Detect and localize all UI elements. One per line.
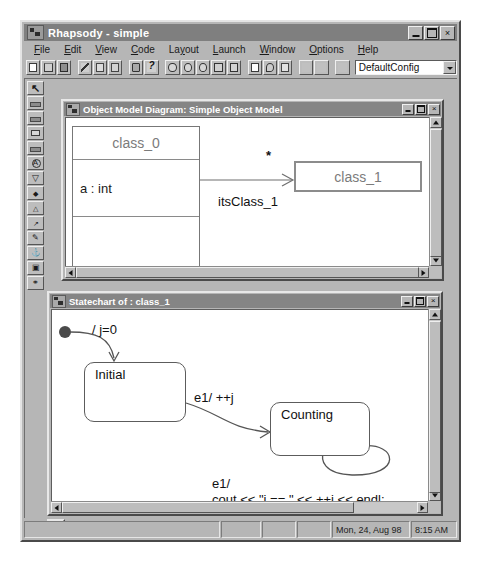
class-tool[interactable] (27, 111, 44, 125)
omd-vertical-thumb[interactable] (430, 129, 442, 257)
anchor-tool[interactable]: ⚓ (27, 246, 44, 260)
statechart-window[interactable]: Statechart of : class_1 × (47, 291, 443, 516)
state-initial[interactable]: Initial (84, 362, 186, 422)
menu-item-options[interactable]: Options (302, 44, 350, 55)
object-tool[interactable] (27, 126, 44, 140)
menu-item-edit[interactable]: Edit (57, 44, 88, 55)
omd-minimize-button[interactable] (402, 104, 414, 115)
properties-list-icon[interactable] (278, 60, 292, 75)
omd-vertical-scrollbar[interactable] (429, 117, 441, 266)
statechart-resize-corner[interactable] (428, 501, 440, 513)
copy-icon[interactable] (93, 60, 107, 75)
omd-resize-corner[interactable] (429, 266, 441, 278)
select-arrow-tool[interactable]: ↖ (27, 81, 44, 95)
state-initial-name: Initial (95, 367, 125, 382)
title-bar[interactable]: Rhapsody - simple × (24, 24, 457, 41)
statechart-scroll-right-arrow[interactable] (417, 502, 428, 513)
menu-item-launch[interactable]: Launch (206, 44, 253, 55)
omd-scroll-left-arrow[interactable] (65, 267, 76, 278)
state-counting-name: Counting (281, 407, 333, 422)
refresh-icon[interactable] (227, 60, 241, 75)
status-time: 8:15 AM (411, 521, 457, 538)
print-icon[interactable] (129, 60, 143, 75)
class-1-name: class_1 (334, 169, 381, 185)
class-0-operations (73, 217, 199, 266)
omd-scroll-up-arrow[interactable] (430, 117, 442, 128)
dependency-tool[interactable]: ↗ (27, 216, 44, 230)
drawing-palette: ↖ A ▽ ◆ △ ↗ ✎ ⚓ ▣ ⚭ (25, 79, 46, 518)
zoom-in-icon[interactable] (165, 60, 179, 75)
open-folder-icon[interactable] (41, 60, 55, 75)
omd-horizontal-thumb[interactable] (76, 267, 419, 278)
rhapsody-app-icon (27, 25, 44, 40)
omd-canvas[interactable]: class_0 a : int class_1 * itsClass_1 (65, 117, 429, 266)
statechart-horizontal-thumb[interactable] (62, 502, 354, 513)
menu-item-help[interactable]: Help (351, 44, 386, 55)
statechart-scroll-up-arrow[interactable] (429, 309, 441, 320)
zoom-selection-icon[interactable] (196, 60, 210, 75)
new-document-icon[interactable] (26, 60, 40, 75)
image-tool[interactable]: ▣ (27, 261, 44, 275)
statechart-scroll-left-arrow[interactable] (51, 502, 62, 513)
menu-item-window[interactable]: Window (253, 44, 303, 55)
omd-maximize-button[interactable] (415, 104, 427, 115)
statechart-maximize-button[interactable] (414, 296, 426, 307)
class-0-name: class_0 (73, 127, 199, 160)
statechart-minimize-button[interactable] (401, 296, 413, 307)
zoom-out-icon[interactable] (181, 60, 195, 75)
statechart-close-button[interactable]: × (427, 296, 439, 307)
statechart-title: Statechart of : class_1 (69, 296, 170, 307)
statechart-horizontal-scrollbar[interactable] (51, 501, 428, 513)
application-window: Rhapsody - simple × File Edit View Code … (20, 20, 461, 542)
menu-item-layout[interactable]: Layout (162, 44, 206, 55)
main-toolbar: DefaultConfig (24, 58, 457, 77)
constraint-tool[interactable]: ⚭ (27, 276, 44, 290)
paste-icon[interactable] (108, 60, 122, 75)
run-icon[interactable] (314, 60, 328, 75)
save-disk-icon[interactable] (57, 60, 71, 75)
aggregation-tool[interactable]: ▽ (27, 171, 44, 185)
new-diagram-icon[interactable] (248, 60, 262, 75)
association-role-label: itsClass_1 (218, 194, 278, 209)
fit-to-window-icon[interactable] (211, 60, 225, 75)
statechart-vertical-scrollbar[interactable] (428, 309, 440, 501)
help-question-icon[interactable] (144, 60, 158, 75)
minimize-button[interactable] (408, 26, 423, 40)
menu-item-code[interactable]: Code (124, 44, 162, 55)
close-button[interactable]: × (440, 26, 455, 40)
omd-close-button[interactable]: × (428, 104, 440, 115)
app-title: Rhapsody - simple (48, 27, 149, 39)
object-model-diagram-window[interactable]: Object Model Diagram: Simple Object Mode… (61, 99, 444, 281)
stop-build-icon[interactable] (299, 60, 313, 75)
omd-title-bar[interactable]: Object Model Diagram: Simple Object Mode… (64, 102, 441, 116)
configuration-value: DefaultConfig (356, 62, 443, 73)
statechart-title-bar[interactable]: Statechart of : class_1 × (50, 294, 440, 308)
animate-icon[interactable] (335, 60, 349, 75)
chevron-down-icon[interactable] (443, 61, 456, 74)
comment-tool[interactable]: ✎ (27, 231, 44, 245)
class-box-class-1[interactable]: class_1 (294, 161, 422, 192)
menu-item-file[interactable]: File (27, 44, 57, 55)
inheritance-tool[interactable]: △ (27, 201, 44, 215)
package-tool[interactable] (27, 96, 44, 110)
search-magnifier-icon[interactable] (263, 60, 277, 75)
statechart-vertical-thumb[interactable] (429, 321, 441, 493)
diagram-window-icon (66, 103, 80, 116)
class-box-class-0[interactable]: class_0 a : int (72, 126, 200, 266)
maximize-button[interactable] (424, 26, 439, 40)
omd-scroll-right-arrow[interactable] (418, 267, 429, 278)
mdi-client-area: ↖ A ▽ ◆ △ ↗ ✎ ⚓ ▣ ⚭ Object Model Diagram… (24, 78, 457, 518)
state-counting[interactable]: Counting (270, 402, 370, 456)
association-tool[interactable]: A (27, 156, 44, 170)
statechart-canvas[interactable]: / j=0 Initial Counting e1/ ++j e1/ cout … (51, 309, 428, 501)
omd-window-controls: × (402, 104, 441, 115)
cut-scissors-icon[interactable] (78, 60, 92, 75)
composition-tool[interactable]: ◆ (27, 186, 44, 200)
close-icon: × (445, 28, 450, 37)
actor-tool[interactable] (27, 141, 44, 155)
statechart-close-icon: × (431, 297, 436, 305)
omd-horizontal-scrollbar[interactable] (65, 266, 429, 278)
menu-item-view[interactable]: View (88, 44, 124, 55)
omd-close-icon: × (432, 105, 437, 113)
configuration-combobox[interactable]: DefaultConfig (355, 60, 457, 75)
